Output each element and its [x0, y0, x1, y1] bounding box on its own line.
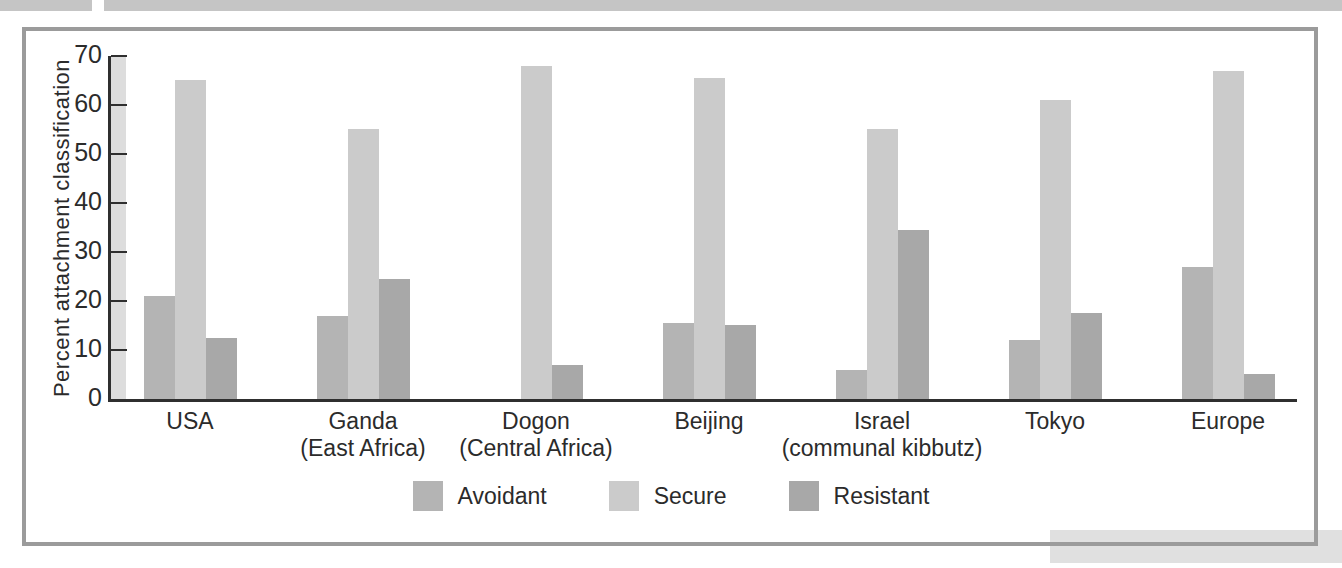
x-axis-label-line1: Europe — [1098, 408, 1342, 435]
page: Percent attachment classification 010203… — [0, 0, 1342, 568]
y-axis-tick-50 — [111, 153, 127, 155]
legend-swatch-avoidant — [413, 481, 443, 511]
legend: AvoidantSecureResistant — [0, 481, 1342, 511]
legend-label-resistant: Resistant — [834, 483, 930, 510]
y-axis-tick-label-10: 10 — [40, 334, 102, 363]
y-axis-title: Percent attachment classification — [49, 28, 75, 428]
attachment-bar-chart: Percent attachment classification 010203… — [0, 0, 1342, 568]
bar-secure-usa — [175, 80, 206, 399]
x-axis-label-line2: (communal kibbutz) — [752, 435, 1012, 462]
x-axis-line — [108, 399, 1297, 402]
legend-item-resistant: Resistant — [789, 481, 930, 511]
bar-resistant-usa — [206, 338, 237, 399]
legend-label-avoidant: Avoidant — [458, 483, 547, 510]
bar-resistant-europe — [1244, 374, 1275, 399]
bar-secure-ganda — [348, 129, 379, 399]
bar-secure-tokyo — [1040, 100, 1071, 399]
bar-avoidant-tokyo — [1009, 340, 1040, 399]
bar-avoidant-europe — [1182, 267, 1213, 399]
bar-secure-europe — [1213, 71, 1244, 399]
y-axis-tick-label-60: 60 — [40, 89, 102, 118]
bar-avoidant-israel — [836, 370, 867, 399]
legend-swatch-secure — [609, 481, 639, 511]
bar-secure-israel — [867, 129, 898, 399]
bar-resistant-ganda — [379, 279, 410, 399]
bar-resistant-tokyo — [1071, 313, 1102, 399]
x-axis-label-europe: Europe — [1098, 408, 1342, 435]
y-axis-tick-30 — [111, 251, 127, 253]
bar-resistant-dogon — [552, 365, 583, 399]
bar-avoidant-usa — [144, 296, 175, 399]
bar-secure-beijing — [694, 78, 725, 399]
y-axis-tick-20 — [111, 300, 127, 302]
y-axis-tick-label-30: 30 — [40, 236, 102, 265]
y-axis-shaded-band — [111, 56, 126, 399]
bar-avoidant-ganda — [317, 316, 348, 399]
bar-resistant-beijing — [725, 325, 756, 399]
legend-swatch-resistant — [789, 481, 819, 511]
y-axis-tick-10 — [111, 349, 127, 351]
x-axis-label-line2: (Central Africa) — [406, 435, 666, 462]
y-axis-tick-label-40: 40 — [40, 187, 102, 216]
y-axis-tick-label-70: 70 — [40, 40, 102, 69]
bar-resistant-israel — [898, 230, 929, 399]
bar-avoidant-beijing — [663, 323, 694, 399]
legend-label-secure: Secure — [654, 483, 727, 510]
y-axis-tick-40 — [111, 202, 127, 204]
bar-secure-dogon — [521, 66, 552, 399]
legend-item-avoidant: Avoidant — [413, 481, 547, 511]
legend-item-secure: Secure — [609, 481, 727, 511]
y-axis-tick-70 — [111, 55, 127, 57]
y-axis-tick-label-20: 20 — [40, 285, 102, 314]
y-axis-tick-60 — [111, 104, 127, 106]
y-axis-tick-label-50: 50 — [40, 138, 102, 167]
